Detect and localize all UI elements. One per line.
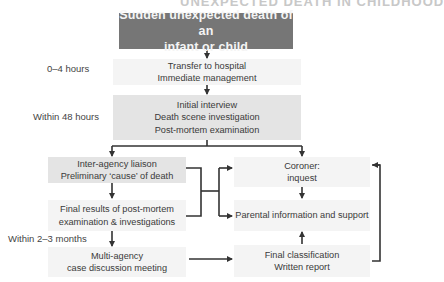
node-initial-line1: Initial interview	[177, 99, 237, 112]
node-sudden-death-line1: Sudden unexpected death of an	[119, 7, 293, 39]
node-parental-line1: Parental information and support	[235, 209, 368, 222]
node-inter-agency-liaison: Inter-agency liaison Preliminary ‘cause’…	[48, 157, 186, 183]
node-final-results-line1: Final results of post-mortem	[60, 203, 174, 216]
node-initial-line2: Death scene investigation	[154, 111, 259, 124]
node-sudden-death: Sudden unexpected death of an infant or …	[119, 13, 293, 49]
node-transfer-to-hospital: Transfer to hospital Immediate managemen…	[113, 59, 301, 85]
node-initial-interview: Initial interview Death scene investigat…	[113, 95, 301, 140]
node-classification-line1: Final classification	[265, 249, 340, 262]
node-transfer-line2: Immediate management	[157, 72, 256, 85]
node-final-results: Final results of post-mortem examination…	[48, 200, 186, 231]
node-liaison-line1: Inter-agency liaison	[77, 158, 157, 171]
node-multiagency-line1: Multi-agency	[91, 250, 143, 263]
node-multiagency-line2: case discussion meeting	[67, 262, 167, 275]
node-coroner-inquest: Coroner: inquest	[234, 157, 370, 187]
node-initial-line3: Post-mortem examination	[155, 124, 260, 137]
node-sudden-death-line2: infant or child	[164, 39, 248, 55]
node-coroner-line1: Coroner:	[284, 160, 320, 173]
node-multi-agency-meeting: Multi-agency case discussion meeting	[48, 247, 186, 277]
node-final-results-line2: examination & investigations	[59, 216, 175, 229]
node-parental-support: Parental information and support	[234, 200, 370, 231]
node-final-classification: Final classification Written report	[234, 245, 370, 277]
node-coroner-line2: inquest	[287, 172, 317, 185]
node-classification-line2: Written report	[274, 261, 329, 274]
node-liaison-line2: Preliminary ‘cause’ of death	[61, 170, 174, 183]
node-transfer-line1: Transfer to hospital	[168, 60, 246, 73]
